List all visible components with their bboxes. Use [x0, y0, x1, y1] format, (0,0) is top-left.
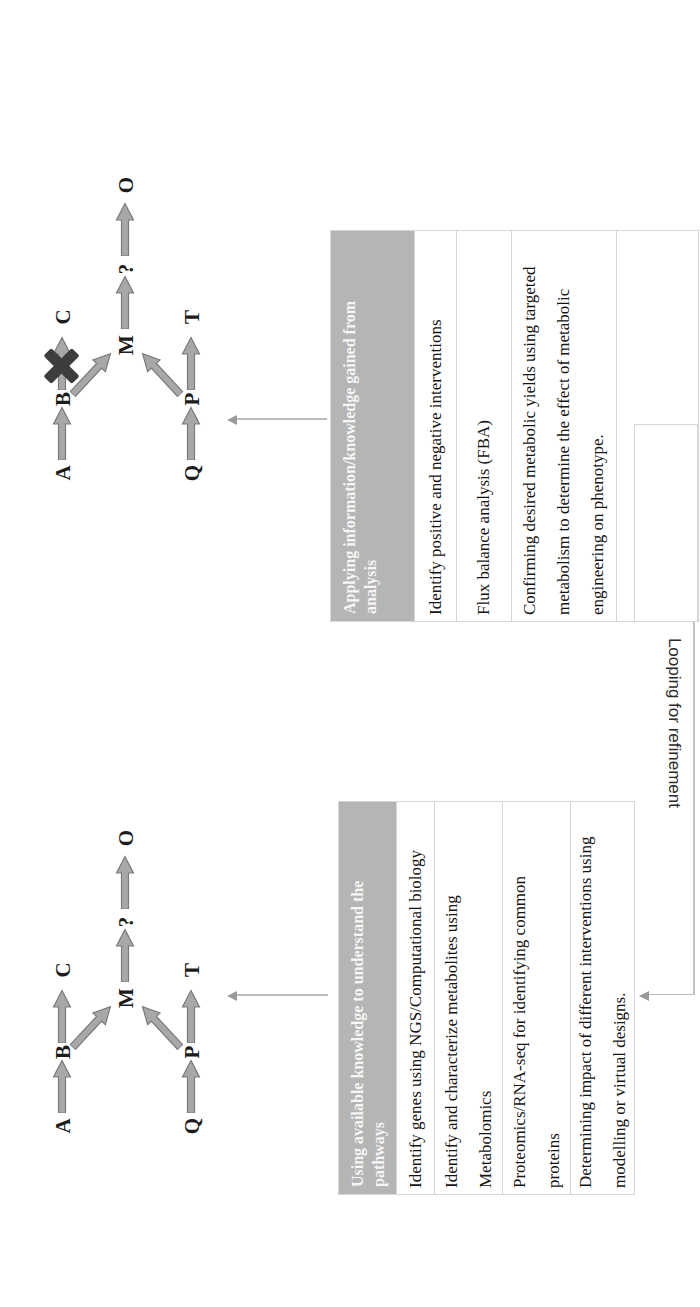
node-q: Q	[180, 462, 204, 484]
table-row: Identify positive and negative intervent…	[414, 231, 456, 621]
node-t: T	[180, 959, 204, 981]
up-arrowhead-icon	[227, 991, 237, 1001]
table-row-empty	[616, 231, 698, 621]
scanned-figure-page: A B C M ? O Q P T A B C	[0, 0, 700, 1307]
table-header: Applying information/knowledge gained fr…	[331, 231, 414, 621]
table-row: Flux balance analysis (FBA)	[456, 231, 511, 621]
table-to-diagram-connector-right	[236, 419, 327, 421]
node-c: C	[51, 306, 75, 328]
table-row: Confirming desired metabolic yields usin…	[511, 231, 616, 621]
table-row: Proteomics/RNA-seq for identifying commo…	[502, 802, 570, 1194]
node-p: P	[180, 388, 204, 410]
arrow-m-to-unknown-icon	[115, 928, 135, 982]
arrow-b-to-m-icon	[65, 999, 119, 1054]
table-applying-knowledge: Applying information/knowledge gained fr…	[330, 230, 699, 622]
table-row: Identify genes using NGS/Computational b…	[396, 802, 434, 1194]
node-unknown: ?	[114, 258, 138, 280]
node-c: C	[51, 959, 75, 981]
loop-line-vertical	[648, 994, 694, 996]
rotated-figure-canvas: A B C M ? O Q P T A B C	[0, 0, 700, 1307]
arrow-unknown-to-o-icon	[115, 202, 135, 256]
node-o: O	[114, 827, 138, 849]
pathway-diagram-after: A B C M ? O Q P T	[45, 167, 205, 487]
table-using-knowledge: Using available knowledge to understand …	[338, 801, 635, 1195]
arrow-m-to-unknown-icon	[115, 275, 135, 329]
node-a: A	[51, 462, 75, 484]
loop-label: Looping for refinement	[664, 638, 684, 808]
arrow-q-to-p-icon	[181, 406, 201, 460]
node-p: P	[180, 1041, 204, 1063]
loop-line-horizontal	[693, 619, 695, 995]
arrow-unknown-to-o-icon	[115, 855, 135, 909]
node-o: O	[114, 174, 138, 196]
table-row: Identify and characterize metabolites us…	[434, 802, 502, 1194]
table-row: Determining impact of different interven…	[570, 802, 634, 1194]
up-arrowhead-icon	[227, 415, 237, 425]
arrow-a-to-b-icon	[52, 406, 72, 460]
node-t: T	[180, 306, 204, 328]
arrow-p-to-t-icon	[181, 336, 201, 390]
node-a: A	[51, 1115, 75, 1137]
table-to-diagram-connector-left	[236, 995, 328, 997]
arrow-a-to-b-icon	[52, 1059, 72, 1113]
node-m: M	[114, 334, 138, 356]
pathway-diagram-before: A B C M ? O Q P T	[45, 820, 205, 1140]
arrow-q-to-p-icon	[181, 1059, 201, 1113]
up-arrowhead-icon	[639, 991, 649, 1001]
node-m: M	[114, 987, 138, 1009]
table-header: Using available knowledge to understand …	[339, 802, 396, 1194]
node-unknown: ?	[114, 911, 138, 933]
arrow-p-to-t-icon	[181, 989, 201, 1043]
node-q: Q	[180, 1115, 204, 1137]
empty-cell	[634, 424, 698, 621]
